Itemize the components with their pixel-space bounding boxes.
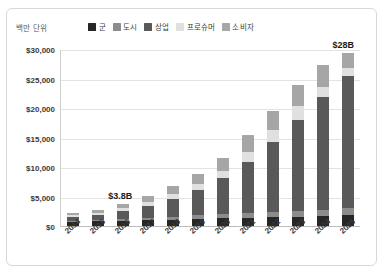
bar-value-annotation: $28B bbox=[333, 40, 355, 50]
chart-legend: 군도시상업프로슈머소비자 bbox=[88, 21, 254, 32]
bar-segment bbox=[342, 68, 354, 76]
y-tick-label: $30,000 bbox=[26, 46, 55, 55]
bar-group[interactable] bbox=[267, 111, 279, 226]
bar-segment bbox=[317, 87, 329, 97]
legend-label: 군 bbox=[99, 21, 106, 32]
legend-label: 도시 bbox=[123, 21, 137, 32]
legend-swatch-icon bbox=[222, 23, 230, 31]
x-axis: 2014201520162017201820192020202120222023… bbox=[61, 229, 360, 271]
bar-segment bbox=[142, 206, 154, 218]
y-tick-mark bbox=[52, 109, 55, 110]
bar-segment bbox=[192, 174, 204, 184]
bar-value-annotation: $3.8B bbox=[108, 191, 132, 201]
y-tick-label: $15,000 bbox=[26, 134, 55, 143]
y-axis: $0$5,000$10,000$15,000$20,000$25,000$30,… bbox=[0, 50, 55, 227]
legend-label: 프로슈머 bbox=[187, 21, 215, 32]
bar-segment bbox=[267, 130, 279, 142]
bar-segment bbox=[292, 120, 304, 211]
legend-item-1[interactable]: 도시 bbox=[113, 21, 138, 32]
bar-series-container bbox=[61, 50, 360, 227]
bar-segment bbox=[292, 106, 304, 120]
bar-segment bbox=[217, 171, 229, 179]
bar-segment bbox=[267, 142, 279, 212]
chart-screenshot: 백만 단위 군도시상업프로슈머소비자 $0$5,000$10,000$15,00… bbox=[0, 0, 385, 274]
bar-segment bbox=[217, 158, 229, 171]
bar-segment bbox=[167, 199, 179, 217]
legend-label: 소비자 bbox=[232, 21, 253, 32]
y-tick-label: $20,000 bbox=[26, 105, 55, 114]
legend-swatch-icon bbox=[88, 23, 96, 31]
bar-segment bbox=[317, 65, 329, 87]
bar-segment bbox=[242, 152, 254, 162]
bar-group[interactable] bbox=[342, 53, 354, 226]
legend-swatch-icon bbox=[113, 23, 121, 31]
bar-segment bbox=[342, 53, 354, 68]
y-tick-mark bbox=[52, 79, 55, 80]
y-tick-mark bbox=[52, 227, 55, 228]
bar-segment bbox=[292, 85, 304, 106]
legend-label: 상업 bbox=[155, 21, 169, 32]
bar-segment bbox=[342, 208, 354, 215]
bar-segment bbox=[242, 135, 254, 152]
bar-segment bbox=[192, 190, 204, 215]
bar-segment bbox=[317, 97, 329, 209]
units-label: 백만 단위 bbox=[16, 22, 47, 33]
bar-group[interactable] bbox=[292, 85, 304, 226]
bar-segment bbox=[217, 178, 229, 214]
legend-item-0[interactable]: 군 bbox=[88, 21, 106, 32]
bar-segment bbox=[242, 162, 254, 213]
plot-area bbox=[61, 50, 360, 227]
y-tick-mark bbox=[52, 168, 55, 169]
legend-item-4[interactable]: 소비자 bbox=[222, 21, 254, 32]
y-tick-mark bbox=[52, 197, 55, 198]
legend-item-3[interactable]: 프로슈머 bbox=[176, 21, 215, 32]
bar-group[interactable] bbox=[217, 158, 229, 226]
y-tick-label: $25,000 bbox=[26, 75, 55, 84]
y-tick-mark bbox=[52, 50, 55, 51]
bar-segment bbox=[342, 76, 354, 209]
y-tick-mark bbox=[52, 138, 55, 139]
y-tick-label: $10,000 bbox=[26, 164, 55, 173]
legend-swatch-icon bbox=[176, 23, 184, 31]
bar-group[interactable] bbox=[242, 135, 254, 226]
legend-item-2[interactable]: 상업 bbox=[144, 21, 169, 32]
bar-group[interactable] bbox=[317, 65, 329, 226]
bar-segment bbox=[167, 186, 179, 194]
legend-swatch-icon bbox=[144, 23, 152, 31]
bar-segment bbox=[267, 111, 279, 130]
